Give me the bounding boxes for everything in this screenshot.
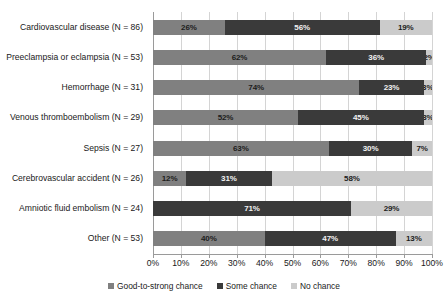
bar-row: 62%36%2% — [153, 50, 432, 65]
chart-legend: Good-to-strong chanceSome chanceNo chanc… — [0, 281, 448, 291]
bar-segment-good: 26% — [153, 20, 225, 35]
axis-tick — [348, 254, 349, 258]
category-label: Sepsis (N = 27) — [84, 143, 143, 153]
axis-tick — [237, 254, 238, 258]
legend-item[interactable]: Good-to-strong chance — [108, 281, 203, 291]
bar-rows: 26%56%19%62%36%2%74%23%3%52%45%3%63%30%7… — [153, 12, 432, 254]
value-axis-tick-label: 80% — [368, 258, 385, 268]
bar-segment-good: 62% — [153, 50, 326, 65]
category-label: Venous thromboembolism (N = 29) — [10, 112, 143, 122]
axis-tick — [153, 254, 154, 258]
axis-tick — [432, 254, 433, 258]
axis-tick — [376, 254, 377, 258]
bar-row: 71%29% — [153, 201, 432, 216]
bar-segment-some: 47% — [265, 231, 396, 246]
bar-segment-some: 71% — [153, 201, 351, 216]
legend-label: Some chance — [226, 281, 277, 291]
value-axis-tick-label: 0% — [147, 258, 159, 268]
value-axis-tick-label: 70% — [340, 258, 357, 268]
value-axis-tick-label: 100% — [421, 258, 443, 268]
axis-tick — [265, 254, 266, 258]
bar-segment-none: 58% — [272, 171, 432, 186]
bar-segment-none: 19% — [380, 20, 432, 35]
category-label: Hemorrhage (N = 31) — [62, 82, 143, 92]
legend-swatch-icon — [217, 283, 223, 289]
axis-tick — [293, 254, 294, 258]
bar-segment-none: 13% — [396, 231, 432, 246]
category-label: Amniotic fluid embolism (N = 24) — [19, 203, 143, 213]
plot-area: 26%56%19%62%36%2%74%23%3%52%45%3%63%30%7… — [153, 12, 432, 254]
bar-segment-some: 30% — [329, 141, 413, 156]
axis-tick — [181, 254, 182, 258]
bar-segment-some: 45% — [298, 110, 424, 125]
category-label: Other (N = 53) — [88, 233, 143, 243]
bar-row: 26%56%19% — [153, 20, 432, 35]
legend-swatch-icon — [108, 283, 114, 289]
bar-segment-good: 52% — [153, 110, 298, 125]
legend-label: Good-to-strong chance — [117, 281, 203, 291]
bar-segment-none: 29% — [351, 201, 432, 216]
axis-tick — [404, 254, 405, 258]
category-label: Cardiovascular disease (N = 86) — [20, 22, 143, 32]
value-axis-tick-label: 30% — [228, 258, 245, 268]
legend-item[interactable]: No chance — [291, 281, 340, 291]
category-axis-labels: Cardiovascular disease (N = 86)Preeclamp… — [0, 12, 148, 254]
bar-row: 40%47%13% — [153, 231, 432, 246]
bar-row: 63%30%7% — [153, 141, 432, 156]
bar-segment-none: 2% — [426, 50, 432, 65]
value-axis-tick-label: 10% — [172, 258, 189, 268]
category-label: Cerebrovascular accident (N = 26) — [12, 173, 143, 183]
gridline — [432, 12, 433, 254]
bar-row: 12%31%58% — [153, 171, 432, 186]
bar-row: 74%23%3% — [153, 80, 432, 95]
value-axis-tick-label: 50% — [284, 258, 301, 268]
axis-tick — [209, 254, 210, 258]
bar-segment-none: 3% — [424, 110, 432, 125]
category-label: Preeclampsia or eclampsia (N = 53) — [6, 52, 143, 62]
bar-row: 52%45%3% — [153, 110, 432, 125]
bar-segment-some: 36% — [326, 50, 426, 65]
stacked-bar-chart: Cardiovascular disease (N = 86)Preeclamp… — [0, 0, 448, 300]
bar-segment-good: 74% — [153, 80, 359, 95]
bar-segment-some: 23% — [359, 80, 423, 95]
value-axis-tick-label: 60% — [312, 258, 329, 268]
bar-segment-none: 7% — [412, 141, 432, 156]
bar-segment-good: 40% — [153, 231, 265, 246]
bar-segment-good: 12% — [153, 171, 186, 186]
bar-segment-some: 56% — [225, 20, 380, 35]
value-axis-tick-label: 90% — [395, 258, 412, 268]
axis-tick — [320, 254, 321, 258]
value-axis-labels: 0%10%20%30%40%50%60%70%80%90%100% — [153, 258, 432, 272]
legend-label: No chance — [300, 281, 340, 291]
legend-swatch-icon — [291, 283, 297, 289]
legend-item[interactable]: Some chance — [217, 281, 277, 291]
value-axis-tick-label: 20% — [200, 258, 217, 268]
bar-segment-good: 63% — [153, 141, 329, 156]
bar-segment-none: 3% — [424, 80, 432, 95]
value-axis-tick-label: 40% — [256, 258, 273, 268]
bar-segment-some: 31% — [186, 171, 272, 186]
